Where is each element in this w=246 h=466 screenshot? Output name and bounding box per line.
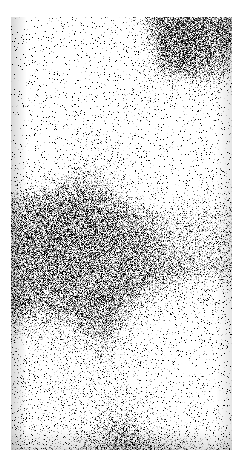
page-canvas	[0, 0, 246, 466]
photo-grain-fine-layer	[11, 17, 232, 450]
grain-photograph	[11, 17, 232, 450]
